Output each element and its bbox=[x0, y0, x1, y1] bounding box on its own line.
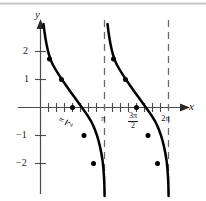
data-point bbox=[70, 105, 75, 110]
y-axis bbox=[37, 19, 45, 194]
data-point bbox=[47, 57, 52, 62]
data-point bbox=[155, 161, 160, 166]
data-point bbox=[82, 133, 87, 138]
y-tick-label-minus-1: −1 bbox=[16, 130, 27, 140]
x-tick-label-pi: π bbox=[101, 114, 106, 123]
cotangent-branch-2 bbox=[108, 24, 169, 196]
data-point bbox=[123, 77, 128, 82]
fraction-3pi-over-2: 3π 2 bbox=[128, 112, 138, 130]
x-tick-label-3pi-over-2: 3π 2 bbox=[128, 112, 138, 130]
fraction-denominator: 2 bbox=[128, 122, 138, 130]
y-tick-label-2: 2 bbox=[23, 46, 28, 56]
cotangent-branch-1 bbox=[44, 24, 105, 196]
data-point bbox=[111, 57, 116, 62]
x-tick-label-2pi: 2π bbox=[161, 114, 170, 123]
graph-canvas bbox=[0, 0, 206, 201]
cotangent-graph-figure: x y 2 1 −1 −2 π 2π π 2 3π 2 bbox=[0, 0, 206, 201]
data-point bbox=[146, 133, 151, 138]
data-point bbox=[91, 161, 96, 166]
data-point bbox=[134, 105, 139, 110]
x-axis-label: x bbox=[189, 101, 194, 112]
y-axis-label: y bbox=[35, 9, 40, 20]
y-tick-label-minus-2: −2 bbox=[16, 158, 27, 168]
data-point bbox=[59, 77, 64, 82]
y-tick-label-1: 1 bbox=[24, 74, 29, 84]
